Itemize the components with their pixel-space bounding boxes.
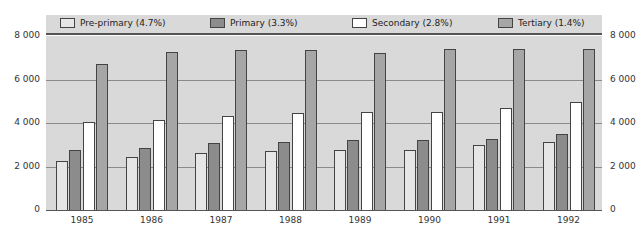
legend-swatch-secondary [352, 18, 367, 28]
bar-tertiary-1988 [305, 50, 317, 210]
bar-primary-1987 [208, 143, 220, 210]
bar-secondary-1992 [570, 102, 582, 210]
bar-pre-primary-1992 [543, 142, 555, 211]
x-tick-label: 1986 [132, 215, 172, 225]
bar-primary-1985 [69, 150, 81, 210]
bar-tertiary-1987 [235, 50, 247, 210]
legend-item-secondary: Secondary (2.8%) [352, 18, 452, 28]
legend-item-primary: Primary (3.3%) [210, 18, 298, 28]
bar-secondary-1988 [292, 113, 304, 210]
x-axis-line [46, 210, 602, 211]
y-tick-label-left: 6 000 [0, 74, 40, 84]
plot-area [46, 36, 602, 210]
bar-pre-primary-1989 [334, 150, 346, 210]
bar-pre-primary-1988 [265, 151, 277, 210]
x-tick-label: 1991 [479, 215, 519, 225]
y-tick-label-right: 8 000 [610, 30, 644, 40]
y-tick-label-left: 8 000 [0, 30, 40, 40]
bar-tertiary-1991 [513, 49, 525, 210]
x-tick-label: 1987 [201, 215, 241, 225]
bar-secondary-1991 [500, 108, 512, 210]
y-tick-label-left: 4 000 [0, 117, 40, 127]
bar-primary-1986 [139, 148, 151, 210]
y-tick-label-left: 0 [0, 204, 40, 214]
bar-primary-1992 [556, 134, 568, 210]
bar-pre-primary-1986 [126, 157, 138, 210]
x-tick-label: 1992 [549, 215, 589, 225]
legend-label: Pre-primary (4.7%) [80, 18, 166, 28]
bar-tertiary-1985 [96, 64, 108, 210]
x-tick-label: 1988 [271, 215, 311, 225]
bar-pre-primary-1990 [404, 150, 416, 210]
bar-secondary-1990 [431, 112, 443, 210]
x-tick-label: 1985 [62, 215, 102, 225]
bar-pre-primary-1987 [195, 153, 207, 210]
legend-swatch-primary [210, 18, 225, 28]
y-tick-label-left: 2 000 [0, 161, 40, 171]
x-tick-label: 1990 [410, 215, 450, 225]
legend-swatch-tertiary [498, 18, 513, 28]
bar-primary-1989 [347, 140, 359, 210]
bar-secondary-1986 [153, 120, 165, 210]
y-tick-label-right: 4 000 [610, 117, 644, 127]
y-tick-label-right: 2 000 [610, 161, 644, 171]
bar-tertiary-1986 [166, 52, 178, 210]
y-tick-label-right: 0 [610, 204, 644, 214]
bar-primary-1990 [417, 140, 429, 210]
legend-label: Secondary (2.8%) [372, 18, 452, 28]
x-tick-label: 1989 [340, 215, 380, 225]
legend-swatch-pre-primary [60, 18, 75, 28]
legend-label: Tertiary (1.4%) [518, 18, 585, 28]
bar-secondary-1985 [83, 122, 95, 210]
bar-tertiary-1990 [444, 49, 456, 210]
legend-item-pre-primary: Pre-primary (4.7%) [60, 18, 166, 28]
bar-pre-primary-1991 [473, 145, 485, 210]
legend-item-tertiary: Tertiary (1.4%) [498, 18, 585, 28]
chart-legend: Pre-primary (4.7%) Primary (3.3%) Second… [46, 15, 602, 35]
y-tick-label-right: 6 000 [610, 74, 644, 84]
bar-tertiary-1992 [583, 49, 595, 210]
bar-secondary-1989 [361, 112, 373, 210]
bar-tertiary-1989 [374, 53, 386, 210]
bar-pre-primary-1985 [56, 161, 68, 210]
bar-secondary-1987 [222, 116, 234, 210]
bar-primary-1991 [486, 139, 498, 210]
bar-primary-1988 [278, 142, 290, 211]
legend-label: Primary (3.3%) [230, 18, 298, 28]
